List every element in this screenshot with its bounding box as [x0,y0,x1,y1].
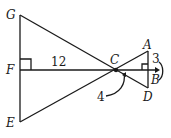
segment-EA [20,51,148,122]
right-angle-marker-B [142,64,148,70]
label-F: F [5,63,15,77]
label-G: G [6,8,16,22]
measure-AB: 3 [152,52,160,66]
point-C [114,68,118,72]
pointer-curve-4 [106,73,124,96]
label-B: B [150,73,160,87]
geometry-diagram: G F E C A B D 12 3 4 [0,0,171,138]
segment-GD [20,15,148,88]
measure-FC: 12 [51,55,66,69]
label-D: D [142,90,153,104]
label-A: A [142,38,152,52]
label-E: E [5,116,15,130]
label-C: C [110,53,119,67]
right-angle-marker-F [20,59,31,70]
measure-CB: 4 [97,90,105,104]
